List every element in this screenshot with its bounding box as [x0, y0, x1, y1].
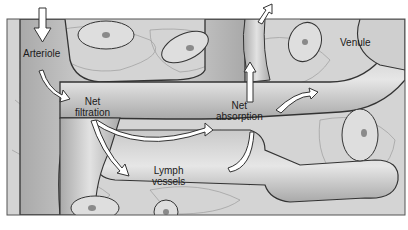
label-net-absorption-line1: Net: [216, 100, 263, 111]
label-arteriole: Arteriole: [23, 48, 60, 59]
label-venule: Venule: [340, 37, 371, 48]
label-net-absorption: Net absorption: [216, 100, 263, 122]
label-net-filtration: Net filtration: [75, 96, 110, 118]
label-lymph-line1: Lymph: [152, 165, 185, 176]
label-lymph-line2: vessels: [152, 176, 185, 187]
label-lymph-vessels: Lymph vessels: [152, 165, 185, 187]
capillary-bed-diagram: [0, 0, 408, 230]
label-net-filtration-line1: Net: [75, 96, 110, 107]
label-net-absorption-line2: absorption: [216, 111, 263, 122]
label-net-filtration-line2: filtration: [75, 107, 110, 118]
